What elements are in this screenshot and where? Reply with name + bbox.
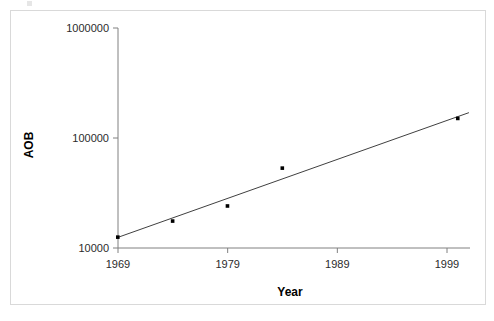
data-point-marker [281, 166, 285, 170]
trend-line [118, 113, 469, 238]
data-point-marker [226, 204, 230, 208]
x-axis-tick-label: 1989 [325, 258, 349, 270]
chart-figure: 100001000001000000 1969197919891999 AOB … [0, 0, 494, 321]
y-axis-ticks [113, 28, 118, 248]
y-axis-tick-label: 10000 [78, 242, 109, 254]
x-axis-tick-labels: 1969197919891999 [106, 258, 459, 270]
data-point-marker [456, 117, 460, 121]
x-axis-ticks [118, 248, 447, 253]
y-axis-tick-label: 100000 [72, 132, 109, 144]
x-axis-tick-label: 1999 [435, 258, 459, 270]
y-axis-tick-label: 1000000 [66, 22, 109, 34]
data-point-marker [116, 235, 120, 239]
x-axis-tick-label: 1979 [215, 258, 239, 270]
x-axis-tick-label: 1969 [106, 258, 130, 270]
y-axis-tick-labels: 100001000001000000 [66, 22, 109, 254]
data-point-markers [116, 117, 460, 239]
x-axis-title: Year [277, 285, 303, 299]
y-axis-title: AOB [22, 131, 36, 158]
scatter-plot-svg: 100001000001000000 1969197919891999 AOB … [0, 0, 494, 321]
trend-line-path [118, 113, 469, 238]
data-point-marker [171, 219, 175, 223]
